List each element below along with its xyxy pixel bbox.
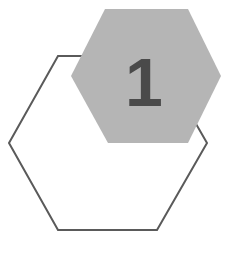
step-diagram: 1 — [0, 0, 230, 271]
step-number: 1 — [125, 44, 163, 120]
